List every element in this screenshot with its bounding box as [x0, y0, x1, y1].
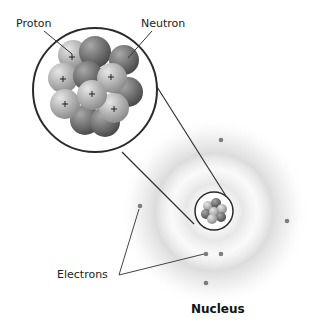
- electrons-label: Electrons: [57, 268, 108, 281]
- electron: [204, 252, 209, 257]
- atom-diagram: Proton Neutron Electrons Nucleus: [0, 0, 314, 327]
- nucleus-label: Nucleus: [191, 302, 245, 316]
- electron: [138, 204, 143, 209]
- electron: [285, 219, 290, 224]
- electron: [219, 138, 224, 143]
- proton-label: Proton: [16, 17, 51, 30]
- atom-illustration: [0, 0, 314, 327]
- electron: [204, 281, 209, 286]
- electron: [219, 252, 224, 257]
- neutron-label: Neutron: [141, 17, 185, 30]
- nucleus-small: [195, 192, 233, 230]
